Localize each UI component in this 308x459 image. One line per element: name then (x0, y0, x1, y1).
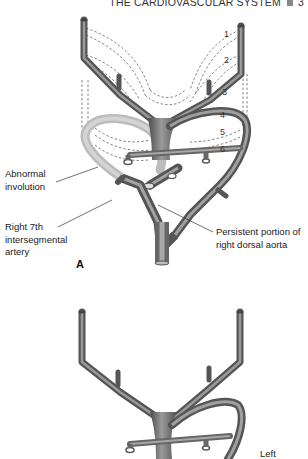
figure-b-diagram (79, 311, 244, 459)
arch-number-2: 2 (224, 55, 229, 65)
label-right-7th-intersegmental-artery: Right 7th intersegmental artery (5, 221, 67, 259)
leader-abnormal-involution (56, 167, 98, 182)
label-persistent-right-dorsal-aorta: Persistent portion of right dorsal aorta (216, 226, 301, 251)
arch-number-4: 4 (220, 110, 225, 120)
arch-number-1: 1 (224, 29, 229, 39)
arch-number-6: 6 (220, 144, 225, 154)
arch-number-3: 3 (222, 87, 227, 97)
label-left: Left (260, 448, 276, 459)
arch-number-5: 5 (220, 127, 225, 137)
panel-letter-a: A (76, 258, 84, 270)
label-abnormal-involution: Abnormal involution (5, 168, 46, 193)
